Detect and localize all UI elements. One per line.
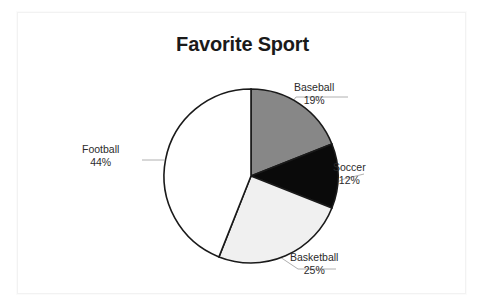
slice-label-baseball-name: Baseball [294, 81, 334, 93]
slice-label-football-value: 44% [82, 156, 119, 169]
slice-label-basketball-value: 25% [290, 264, 338, 277]
slice-label-football-name: Football [82, 143, 119, 155]
slice-label-basketball-name: Basketball [290, 251, 338, 263]
slice-label-baseball: Baseball 19% [294, 81, 334, 107]
chart-frame: Favorite Sport Baseball 19% Soccer 12% B… [17, 12, 466, 294]
slice-label-soccer-name: Soccer [333, 161, 366, 173]
slice-label-soccer-value: 12% [333, 174, 366, 187]
slice-label-baseball-value: 19% [294, 94, 334, 107]
slice-label-football: Football 44% [82, 143, 119, 169]
slice-label-soccer: Soccer 12% [333, 161, 366, 187]
slice-label-basketball: Basketball 25% [290, 251, 338, 277]
